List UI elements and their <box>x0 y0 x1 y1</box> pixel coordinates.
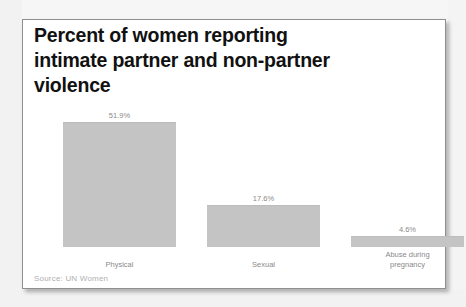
bar-column-sexual: 17.6% <box>191 104 335 247</box>
bar-value-physical: 51.9% <box>63 111 176 120</box>
bar-value-abuse-during-pregnancy: 4.6% <box>351 225 464 234</box>
chart-title: Percent of women reporting intimate part… <box>34 23 438 98</box>
chart-source-note: Source: UN Women <box>34 274 108 283</box>
chart-title-line-2: intimate partner and non-partner <box>34 48 438 73</box>
bar-category-sexual-line-1: Sexual <box>197 260 330 270</box>
bar-category-sexual: Sexual <box>197 260 330 270</box>
bar-group-abuse-during-pregnancy: 4.6% Abuse during pregnancy <box>335 104 466 288</box>
bar-category-abuse-line-1: Abuse during <box>341 250 466 260</box>
bar-column-abuse-during-pregnancy: 4.6% <box>335 104 466 247</box>
bar-category-physical-line-1: Physical <box>53 260 186 270</box>
chart-title-line-1: Percent of women reporting <box>34 23 438 48</box>
bar-column-physical: 51.9% <box>47 104 191 247</box>
bar-category-abuse-during-pregnancy: Abuse during pregnancy <box>341 250 466 270</box>
page-background-bottom <box>0 290 466 307</box>
chart-title-line-3: violence <box>34 73 438 98</box>
bar-group-sexual: 17.6% Sexual <box>191 104 335 288</box>
bar-category-abuse-line-2: pregnancy <box>341 260 466 270</box>
chart-card: Percent of women reporting intimate part… <box>22 19 446 289</box>
page-background-top <box>0 0 466 19</box>
page-root: Percent of women reporting intimate part… <box>0 0 466 307</box>
bar-category-physical: Physical <box>53 260 186 270</box>
bar-rect-abuse-during-pregnancy[interactable] <box>351 236 464 247</box>
chart-plot-area: 51.9% Physical 17.6% Sexual 4.6% <box>23 104 445 288</box>
bar-rect-physical[interactable] <box>63 122 176 247</box>
bar-rect-sexual[interactable] <box>207 205 320 247</box>
bar-group-physical: 51.9% Physical <box>47 104 191 288</box>
page-background-left <box>0 0 22 307</box>
bar-value-sexual: 17.6% <box>207 194 320 203</box>
